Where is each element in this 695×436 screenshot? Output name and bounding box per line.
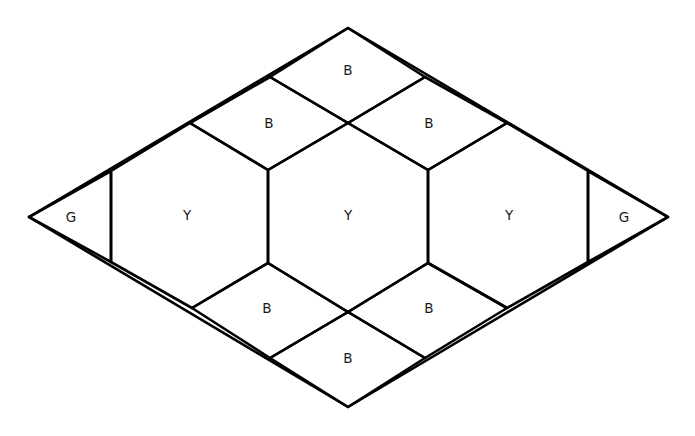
- blue-rhombus-lower-left-label: B: [262, 300, 271, 316]
- diagram-root: GGYYYBBBBBB: [0, 0, 695, 436]
- blue-rhombus-upper-right-label: B: [424, 115, 433, 131]
- blue-rhombus-lower-right-label: B: [424, 300, 433, 316]
- rhombus-dissection-diagram: GGYYYBBBBBB: [0, 0, 695, 436]
- green-triangle-left-label: G: [66, 209, 76, 225]
- yellow-hexagon-left-label: Y: [182, 207, 192, 223]
- blue-rhombus-bottom-label: B: [343, 350, 352, 366]
- green-triangle-right-label: G: [619, 209, 629, 225]
- blue-rhombus-top-label: B: [343, 62, 352, 78]
- blue-rhombus-upper-left-label: B: [264, 115, 273, 131]
- yellow-hexagon-right-label: Y: [504, 207, 514, 223]
- yellow-hexagon-center-label: Y: [343, 207, 353, 223]
